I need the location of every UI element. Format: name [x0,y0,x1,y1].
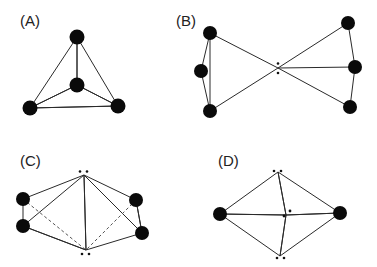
bond [210,68,278,111]
atom-sphere [341,16,355,30]
face-d-lower-left [220,214,286,256]
atom-sphere [70,78,85,93]
lone-pair-dot [276,257,279,260]
face-d-lower-right [280,213,340,256]
lone-pair-dot [280,170,283,173]
lone-pair-dot [277,72,280,75]
atom-sphere [203,26,217,40]
panel-d: (D) [213,152,347,259]
atom-sphere [135,226,149,240]
hidden-bond [23,199,86,250]
lone-pair-dot [88,253,91,256]
atom-sphere [129,193,143,207]
atom-sphere [16,192,30,206]
face-a-left [30,37,77,108]
panel-b: (B) [176,12,362,118]
lone-pair-dot [79,170,82,173]
lone-pair-dot [289,210,292,213]
face-b-right [278,67,355,107]
atom-sphere [16,219,30,233]
panel-a: (A) [20,12,126,116]
atom-sphere [70,30,85,45]
panel-c-label: (C) [20,152,41,169]
panel-c: (C) [16,152,149,255]
atom-sphere [23,101,38,116]
atom-sphere [203,104,217,118]
panel-a-label: (A) [20,12,40,29]
atom-sphere [111,99,126,114]
bond [278,23,348,68]
lone-pair-dot [81,253,84,256]
atom-sphere [333,206,347,220]
lone-pair-dot [86,170,89,173]
figure-canvas: (A) (B) (C) [0,0,377,267]
lone-pair-dot [277,62,280,65]
face-c-right [84,175,142,250]
lone-pair-dot [283,215,286,218]
bond [210,33,278,68]
lone-pair-dot [283,257,286,260]
face-d-upper-right [278,172,340,215]
panel-d-label: (D) [218,152,239,169]
bond [23,175,84,199]
panel-b-label: (B) [176,12,196,29]
face-d-upper-left [220,172,286,215]
atom-sphere [194,64,208,78]
atom-sphere [343,100,357,114]
atom-sphere [213,207,227,221]
bond [30,106,118,108]
lone-pair-dot [273,170,276,173]
atom-sphere [348,60,362,74]
